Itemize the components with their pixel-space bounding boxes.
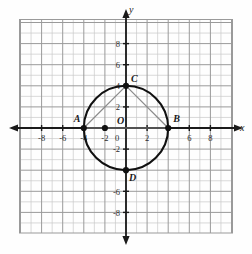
- point-label-a: A: [73, 113, 81, 124]
- x-tick-label: 2: [145, 133, 149, 143]
- y-tick-label: -8: [113, 208, 120, 218]
- point-c: [123, 83, 129, 89]
- y-tick-label: 6: [116, 60, 120, 70]
- y-tick-label: 2: [116, 102, 120, 112]
- y-axis-label: y: [128, 4, 134, 15]
- point-a: [81, 125, 87, 131]
- point-label-b: B: [172, 113, 180, 124]
- point-marker: [102, 125, 108, 131]
- coordinate-plane-figure: -8-6-4-22688642-2-6-8 ABCD x y O 0: [0, 0, 252, 254]
- x-tick-label: 8: [208, 133, 212, 143]
- x-tick-label: 6: [187, 133, 191, 143]
- graph-canvas: -8-6-4-22688642-2-6-8 ABCD x y O 0: [0, 0, 252, 254]
- point-label-c: C: [131, 73, 138, 84]
- x-tick-label: -6: [59, 133, 66, 143]
- point-b: [165, 125, 171, 131]
- y-tick-label: -2: [113, 144, 120, 154]
- origin-label: O: [117, 115, 124, 126]
- y-tick-label: -6: [113, 187, 120, 197]
- zero-tick-label: 0: [115, 133, 119, 143]
- point-label-d: D: [128, 172, 136, 183]
- x-axis-label: x: [239, 122, 245, 133]
- y-tick-label: 8: [116, 39, 120, 49]
- x-tick-label: -8: [38, 133, 45, 143]
- x-tick-label: -2: [101, 133, 108, 143]
